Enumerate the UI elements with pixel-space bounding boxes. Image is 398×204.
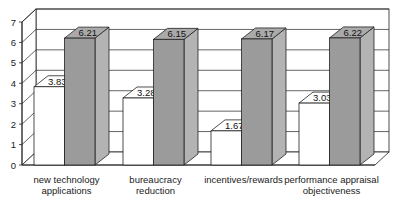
- y-tick-label: 4: [11, 78, 16, 89]
- x-tick-label: objectiveness: [303, 185, 361, 196]
- y-tick-label: 5: [11, 57, 16, 68]
- bar-chart: 012345673.836.21new technologyapplicatio…: [0, 0, 398, 204]
- y-tick-label: 6: [11, 37, 16, 48]
- x-tick-label: reduction: [136, 185, 175, 196]
- y-tick-label: 0: [11, 160, 16, 171]
- data-label: 3.83: [48, 76, 67, 87]
- bar: 6.17: [242, 28, 287, 165]
- x-tick-label: performance appraisal: [284, 174, 379, 185]
- y-tick-label: 1: [11, 139, 16, 150]
- data-label: 6.15: [168, 28, 187, 39]
- x-tick-label: applications: [41, 185, 91, 196]
- data-label: 6.21: [79, 27, 98, 38]
- data-label: 6.17: [256, 28, 275, 39]
- x-tick-label: incentives/rewards: [204, 174, 283, 185]
- data-label: 6.22: [344, 27, 363, 38]
- bar: 6.21: [65, 27, 110, 165]
- x-tick-label: new technology: [33, 174, 99, 185]
- chart-canvas: 012345673.836.21new technologyapplicatio…: [0, 0, 398, 204]
- data-label: 3.28: [137, 87, 156, 98]
- y-tick-label: 7: [11, 17, 16, 28]
- y-tick-label: 3: [11, 98, 16, 109]
- data-label: 3.03: [313, 92, 332, 103]
- x-tick-label: bureaucracy: [129, 174, 182, 185]
- bar: 6.22: [330, 27, 375, 165]
- data-label: 1.67: [225, 120, 244, 131]
- plot-area: 012345673.836.21new technologyapplicatio…: [11, 9, 389, 196]
- y-tick-label: 2: [11, 119, 16, 130]
- bar: 6.15: [154, 28, 199, 165]
